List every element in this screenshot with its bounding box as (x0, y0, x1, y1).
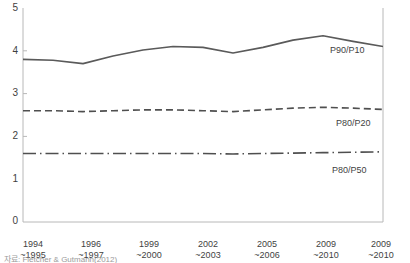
x-tick-label-2: 1999 ~2000 (122, 228, 176, 263)
x-tick-label-0-line1: 1994 (23, 239, 43, 249)
series-line-p90-p10 (23, 36, 383, 64)
series-line-p80-p50 (23, 152, 383, 154)
x-tick-label-3-line2: ~2003 (181, 250, 235, 261)
x-tick-label-6: 2009 ~2010 (354, 228, 408, 263)
x-tick-label-2-line1: 1999 (139, 239, 159, 249)
x-tick-label-4: 2005 ~2006 (240, 228, 294, 263)
series-label-p90-p10: P90/P10 (330, 45, 365, 55)
source-caption: 자료: Fletcher & Gutmann(2012) (4, 253, 117, 263)
x-tick-label-1-line1: 1996 (81, 239, 101, 249)
x-tick-label-3: 2002 ~2003 (181, 228, 235, 263)
series-line-p80-p20 (23, 107, 383, 111)
x-tick-label-4-line1: 2005 (257, 239, 277, 249)
x-tick-label-5-line1: 2009 (316, 239, 336, 249)
x-tick-label-6-line2: ~2010 (354, 250, 408, 261)
chart-container: 5 4 3 2 1 0 1994 ~1995 1996 ~1997 1999 ~… (0, 0, 410, 263)
series-label-p80-p20: P80/P20 (336, 118, 371, 128)
series-label-p80-p50: P80/P50 (332, 165, 367, 175)
plot-area (0, 0, 410, 263)
x-tick-label-4-line2: ~2006 (240, 250, 294, 261)
x-tick-label-5: 2009 ~2010 (299, 228, 353, 263)
x-tick-label-3-line1: 2002 (198, 239, 218, 249)
x-tick-label-2-line2: ~2000 (122, 250, 176, 261)
x-tick-label-6-line1: 2009 (371, 239, 391, 249)
x-tick-label-5-line2: ~2010 (299, 250, 353, 261)
